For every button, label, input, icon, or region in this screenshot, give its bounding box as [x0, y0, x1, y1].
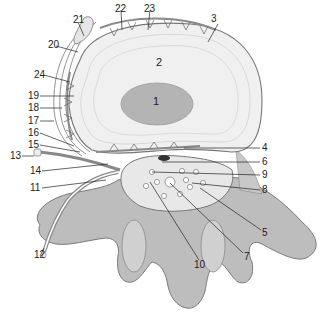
label-23: 23	[144, 4, 155, 14]
label-11: 11	[30, 183, 40, 193]
label-nucleus-pulposus: 1	[153, 96, 159, 106]
label-8: 8	[262, 185, 268, 195]
label-21: 21	[73, 15, 84, 25]
intervertebral-disc	[69, 23, 262, 153]
label-24: 24	[34, 70, 45, 80]
label-7: 7	[244, 252, 250, 262]
label-18: 18	[28, 103, 39, 113]
label-12: 12	[34, 250, 45, 260]
label-14: 14	[30, 166, 41, 176]
label-10: 10	[194, 260, 205, 270]
label-22: 22	[115, 4, 126, 14]
label-5: 5	[262, 228, 268, 238]
label-annulus-fibrosus: 2	[156, 57, 162, 67]
label-3: 3	[211, 14, 217, 24]
label-13: 13	[10, 151, 21, 161]
label-6: 6	[262, 157, 268, 167]
label-17: 17	[28, 116, 39, 126]
label-4: 4	[262, 143, 268, 153]
spinal-canal	[121, 155, 233, 211]
label-15: 15	[28, 140, 39, 150]
label-20: 20	[48, 40, 59, 50]
label-16: 16	[28, 128, 39, 138]
label-9: 9	[262, 170, 268, 180]
label-19: 19	[28, 91, 39, 101]
